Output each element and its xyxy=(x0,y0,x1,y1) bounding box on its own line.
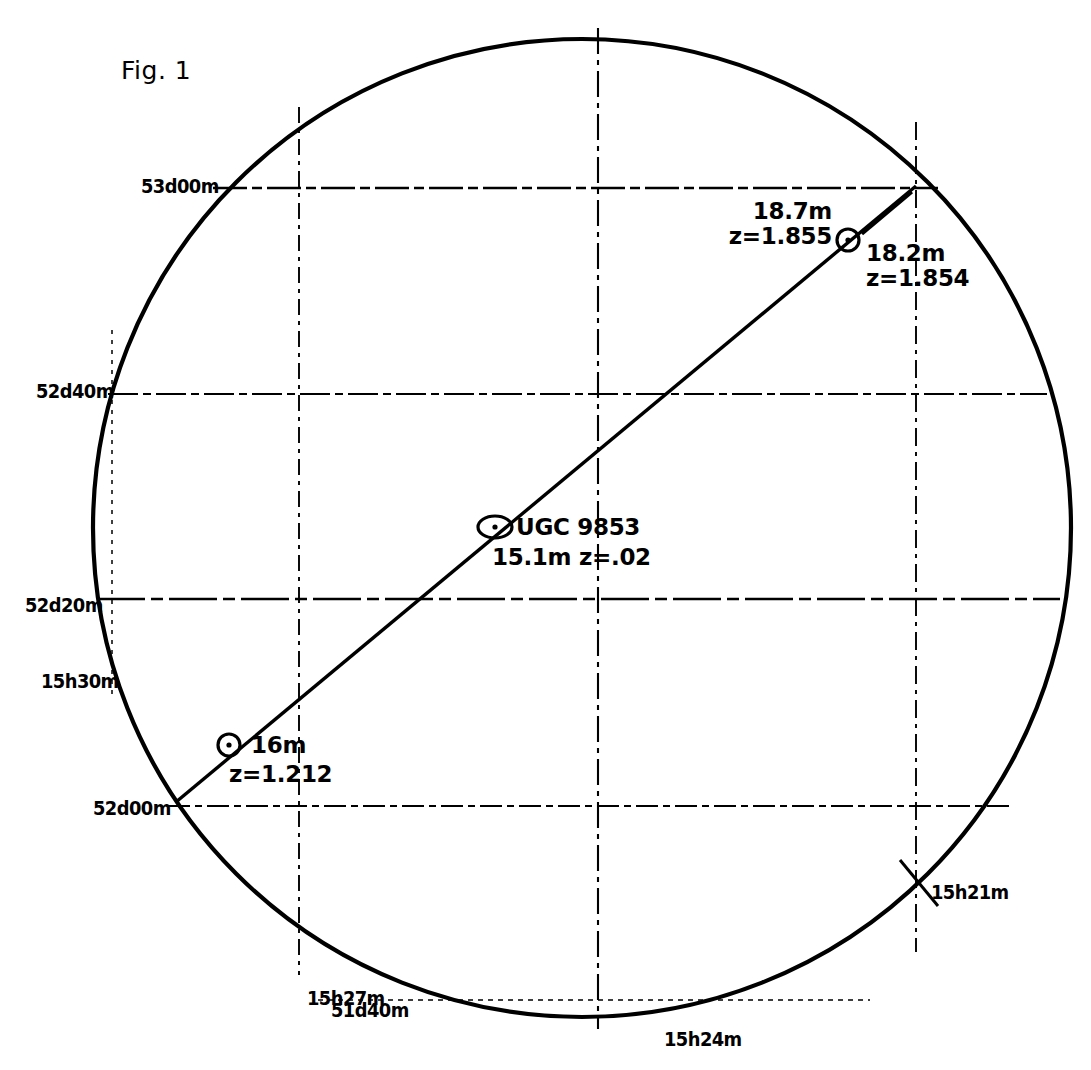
pointer-qso-north xyxy=(862,192,912,234)
dec-tick-52d40m: 52d40m xyxy=(36,381,114,402)
ra-tick-15h24m: 15h24m xyxy=(664,1029,742,1050)
annotation-qso-north-magnitude: 18.7m xyxy=(630,199,832,224)
dec-tick-53d00m: 53d00m xyxy=(141,176,219,197)
ra-tick-15h21m: 15h21m xyxy=(931,882,1009,903)
annotation-ugc-9853-name: UGC 9853 xyxy=(516,515,640,540)
annotation-qso-corner-redshift: z=1.854 xyxy=(866,266,969,291)
annotation-qso-south-redshift: z=1.212 xyxy=(229,762,332,787)
ra-tick-15h27m: 15h27m xyxy=(307,988,385,1009)
dec-tick-52d20m: 52d20m xyxy=(25,595,103,616)
annotation-ugc-9853-magnitude-redshift: 15.1m z=.02 xyxy=(492,545,651,570)
alignment-line xyxy=(176,186,916,802)
figure-title: Fig. 1 xyxy=(121,57,191,84)
annotation-qso-corner-magnitude: 18.2m xyxy=(866,241,969,266)
annotation-qso-north: 18.7m z=1.855 xyxy=(630,199,832,249)
marker-qso-north xyxy=(837,229,859,251)
annotation-qso-south-magnitude: 16m xyxy=(251,733,306,758)
marker-qso-south xyxy=(218,734,240,756)
annotation-qso-corner: 18.2m z=1.854 xyxy=(866,241,969,291)
figure-panel: Fig. 1 53d00m 52d40m 52d20m 52d00m 51d40… xyxy=(0,0,1091,1070)
dec-tick-52d00m: 52d00m xyxy=(93,798,171,819)
annotation-qso-north-redshift: z=1.855 xyxy=(630,224,832,249)
ra-tick-15h30m: 15h30m xyxy=(41,671,119,692)
